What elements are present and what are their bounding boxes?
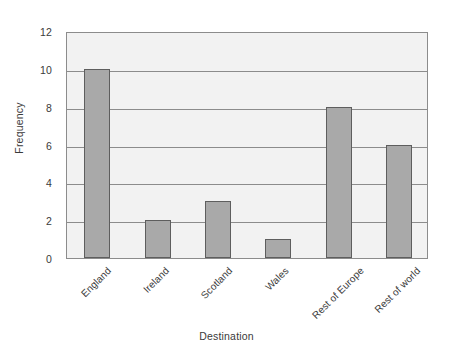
- bar: [84, 69, 110, 258]
- y-tick-label: 8: [46, 102, 52, 114]
- x-axis-ticks: EnglandIrelandScotlandWalesRest of Europ…: [66, 259, 428, 329]
- x-axis-title: Destination: [0, 330, 453, 342]
- bars-group: [67, 33, 427, 258]
- y-tick-label: 2: [46, 215, 52, 227]
- y-tick-label: 6: [46, 140, 52, 152]
- x-tick-label: England: [79, 265, 113, 299]
- x-tick-label: Ireland: [142, 265, 172, 295]
- bar-chart-figure: 024681012 Frequency EnglandIrelandScotla…: [0, 0, 453, 358]
- y-axis-ticks: 024681012: [0, 32, 60, 259]
- x-tick-label: Scotland: [199, 265, 235, 301]
- y-tick-label: 0: [46, 253, 52, 265]
- y-tick-label: 4: [46, 177, 52, 189]
- bar: [205, 201, 231, 258]
- bar: [145, 220, 171, 258]
- y-axis-title: Frequency: [13, 88, 25, 168]
- y-tick-label: 12: [40, 26, 52, 38]
- bar: [386, 145, 412, 259]
- bar: [265, 239, 291, 258]
- bar: [326, 107, 352, 258]
- x-tick-label: Rest of Europe: [309, 265, 365, 321]
- y-tick-label: 10: [40, 64, 52, 76]
- plot-area: [66, 32, 428, 259]
- x-tick-label: Rest of world: [373, 265, 423, 315]
- x-tick-label: Wales: [263, 265, 291, 293]
